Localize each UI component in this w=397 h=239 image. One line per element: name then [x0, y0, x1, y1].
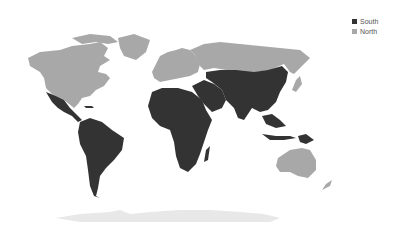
region-caribbean[interactable]	[84, 106, 94, 108]
region-greenland[interactable]	[118, 34, 150, 60]
legend-label-north: North	[360, 28, 377, 35]
world-map	[0, 0, 397, 239]
region-south-america[interactable]	[78, 118, 124, 198]
region-papua[interactable]	[298, 134, 314, 144]
region-japan[interactable]	[292, 76, 302, 92]
legend-item-south[interactable]: South	[352, 16, 378, 26]
region-southeast-asia[interactable]	[262, 114, 286, 128]
region-indonesia[interactable]	[262, 134, 296, 140]
region-antarctica	[56, 210, 280, 222]
legend-label-south: South	[360, 18, 378, 25]
legend-item-north[interactable]: North	[352, 26, 378, 36]
legend: South North	[352, 16, 378, 36]
region-north-america[interactable]	[28, 42, 110, 108]
region-canada-islands[interactable]	[72, 34, 118, 44]
region-europe[interactable]	[152, 48, 200, 82]
region-new-zealand[interactable]	[322, 180, 332, 190]
region-russia[interactable]	[190, 42, 310, 74]
region-madagascar[interactable]	[204, 146, 210, 162]
swatch-north-icon	[352, 29, 357, 34]
region-australia[interactable]	[276, 148, 316, 178]
swatch-south-icon	[352, 19, 357, 24]
